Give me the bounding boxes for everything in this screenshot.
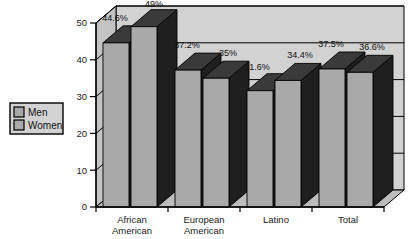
x-category-label: Total	[338, 214, 358, 225]
bar-value-label: 34.4%	[287, 50, 313, 60]
bar-chart: 0102030405044.6%49%37.2%35%31.6%34.4%37.…	[0, 0, 409, 239]
y-tick-label: 20	[76, 128, 87, 139]
bar-front-face	[103, 43, 129, 207]
bar-women-3	[347, 55, 393, 207]
bar-front-face	[203, 78, 229, 207]
x-axis	[96, 207, 384, 212]
legend: MenWomen	[10, 103, 63, 134]
bar-value-label: 37.5%	[318, 39, 344, 49]
bar-front-face	[131, 27, 157, 207]
y-tick-label: 50	[76, 17, 87, 28]
bar-women-1	[203, 61, 249, 207]
bar-value-label: 35%	[219, 48, 237, 58]
bar-value-label: 37.2%	[174, 40, 200, 50]
bar-front-face	[175, 70, 201, 207]
chart-canvas: 0102030405044.6%49%37.2%35%31.6%34.4%37.…	[0, 0, 409, 239]
bar-value-label: 44.6%	[102, 13, 128, 23]
x-category-label: Latino	[263, 214, 289, 225]
bar-front-face	[347, 72, 373, 207]
y-tick-label: 0	[82, 201, 87, 212]
bar-front-face	[275, 80, 301, 207]
bar-side-face	[229, 61, 249, 207]
legend-label-women: Women	[28, 120, 62, 131]
y-tick-label: 40	[76, 54, 87, 65]
x-category-label: American	[184, 225, 224, 236]
bar-side-face	[301, 63, 321, 207]
y-tick-label: 30	[76, 91, 87, 102]
bar-women-0	[131, 10, 177, 207]
y-tick-label: 10	[76, 165, 87, 176]
y-axis	[90, 23, 96, 207]
legend-swatch-men[interactable]	[14, 107, 24, 117]
legend-label-men: Men	[28, 107, 47, 118]
bar-women-2	[275, 63, 321, 207]
bar-front-face	[319, 69, 345, 207]
bar-side-face	[373, 55, 393, 207]
bar-value-label: 49%	[145, 0, 163, 9]
x-category-label: American	[112, 225, 152, 236]
legend-swatch-women[interactable]	[14, 120, 24, 130]
bar-front-face	[247, 91, 273, 207]
bar-value-label: 31.6%	[244, 62, 270, 72]
x-category-label: African	[117, 214, 147, 225]
bar-value-label: 36.6%	[359, 42, 385, 52]
x-category-label: European	[183, 214, 224, 225]
